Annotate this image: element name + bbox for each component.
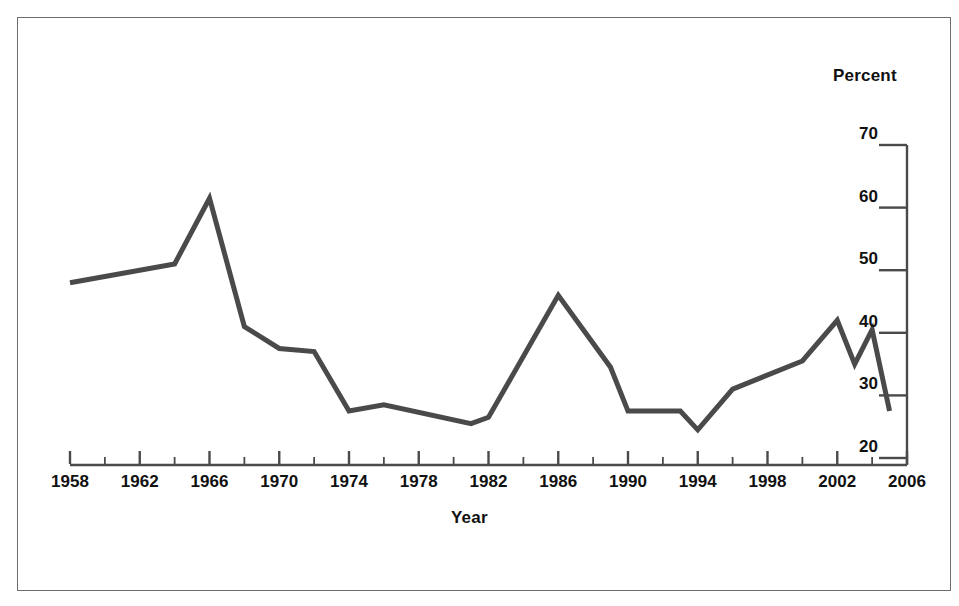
x-axis-tick-label: 1986 bbox=[530, 472, 586, 492]
y-axis-tick-label: 40 bbox=[838, 312, 878, 332]
x-axis-tick-label: 1982 bbox=[461, 472, 517, 492]
x-axis-tick-label: 1966 bbox=[182, 472, 238, 492]
x-axis-tick-label: 1962 bbox=[112, 472, 168, 492]
y-axis-title: Percent bbox=[833, 66, 897, 86]
x-axis-tick-label: 2006 bbox=[879, 472, 935, 492]
x-axis-tick-label: 1970 bbox=[251, 472, 307, 492]
y-axis-tick-label: 50 bbox=[838, 249, 878, 269]
x-axis-tick-label: 1958 bbox=[42, 472, 98, 492]
x-axis-tick-label: 1978 bbox=[391, 472, 447, 492]
x-axis-major-ticks bbox=[70, 451, 907, 464]
figure-canvas: Percent Year 706050403020 19581962196619… bbox=[0, 0, 959, 606]
x-axis-tick-label: 1998 bbox=[740, 472, 796, 492]
y-axis-tick-label: 70 bbox=[838, 124, 878, 144]
x-axis-tick-label: 2002 bbox=[809, 472, 865, 492]
x-axis-tick-label: 1990 bbox=[600, 472, 656, 492]
x-axis-tick-label: 1974 bbox=[321, 472, 377, 492]
y-axis-tick-label: 30 bbox=[838, 374, 878, 394]
y-axis-ticks bbox=[879, 145, 907, 458]
y-axis-tick-label: 60 bbox=[838, 187, 878, 207]
x-axis-title: Year bbox=[451, 508, 488, 528]
x-axis-tick-label: 1994 bbox=[670, 472, 726, 492]
data-series-line bbox=[70, 198, 890, 430]
y-axis-tick-label: 20 bbox=[838, 437, 878, 457]
